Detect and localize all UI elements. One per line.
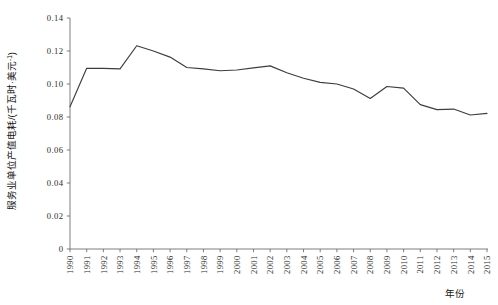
chart-container: 00.020.040.060.080.100.120.14 1990199119… bbox=[0, 0, 498, 305]
y-tick-label: 0 bbox=[59, 244, 64, 254]
x-tick-label: 1996 bbox=[165, 255, 175, 274]
x-axis-title: 年份 bbox=[445, 288, 465, 299]
x-tick-label: 1990 bbox=[65, 256, 75, 274]
y-tick-label: 0.10 bbox=[47, 79, 64, 89]
x-tick-label: 1991 bbox=[82, 256, 92, 274]
x-tick-label: 2006 bbox=[332, 255, 342, 274]
y-tick-label: 0.04 bbox=[47, 178, 64, 188]
x-tick-label: 1994 bbox=[132, 255, 142, 274]
x-tick-label: 2002 bbox=[265, 256, 275, 274]
y-tick-label: 0.06 bbox=[47, 145, 64, 155]
x-tick-label: 2010 bbox=[399, 256, 409, 274]
x-tick-label: 1993 bbox=[115, 256, 125, 274]
x-tick-label: 1995 bbox=[149, 256, 159, 274]
x-tick-label: 2013 bbox=[449, 256, 459, 274]
y-tick-label: 0.02 bbox=[47, 211, 64, 221]
x-tick-label: 2004 bbox=[299, 255, 309, 274]
x-tick-label: 2012 bbox=[432, 256, 442, 274]
x-tick-label: 2007 bbox=[349, 255, 359, 274]
x-tick-label: 1992 bbox=[99, 256, 109, 274]
x-tick-label: 1997 bbox=[182, 255, 192, 274]
x-tick-label: 2008 bbox=[365, 256, 375, 274]
x-tick-label: 2015 bbox=[482, 256, 492, 274]
y-tick-label: 0.14 bbox=[47, 13, 64, 23]
x-tick-label: 2000 bbox=[232, 256, 242, 274]
y-axis-ticks: 00.020.040.060.080.100.120.14 bbox=[47, 13, 70, 254]
data-series-line bbox=[70, 46, 487, 115]
x-tick-label: 2001 bbox=[249, 256, 259, 274]
x-tick-label: 2005 bbox=[315, 256, 325, 274]
y-axis-title: 服务业单位产值电耗/(千瓦时·美元-1) bbox=[6, 52, 17, 210]
x-tick-label: 2011 bbox=[415, 256, 425, 274]
x-axis-ticks: 1990199119921993199419951996199719981999… bbox=[65, 249, 492, 274]
line-chart: 00.020.040.060.080.100.120.14 1990199119… bbox=[0, 0, 498, 305]
y-tick-label: 0.12 bbox=[47, 46, 64, 56]
x-tick-label: 1999 bbox=[215, 256, 225, 274]
x-tick-label: 1998 bbox=[199, 256, 209, 274]
x-tick-label: 2009 bbox=[382, 256, 392, 274]
y-tick-label: 0.08 bbox=[47, 112, 64, 122]
x-tick-label: 2003 bbox=[282, 256, 292, 274]
chart-axes bbox=[70, 18, 488, 249]
x-tick-label: 2014 bbox=[466, 255, 476, 274]
